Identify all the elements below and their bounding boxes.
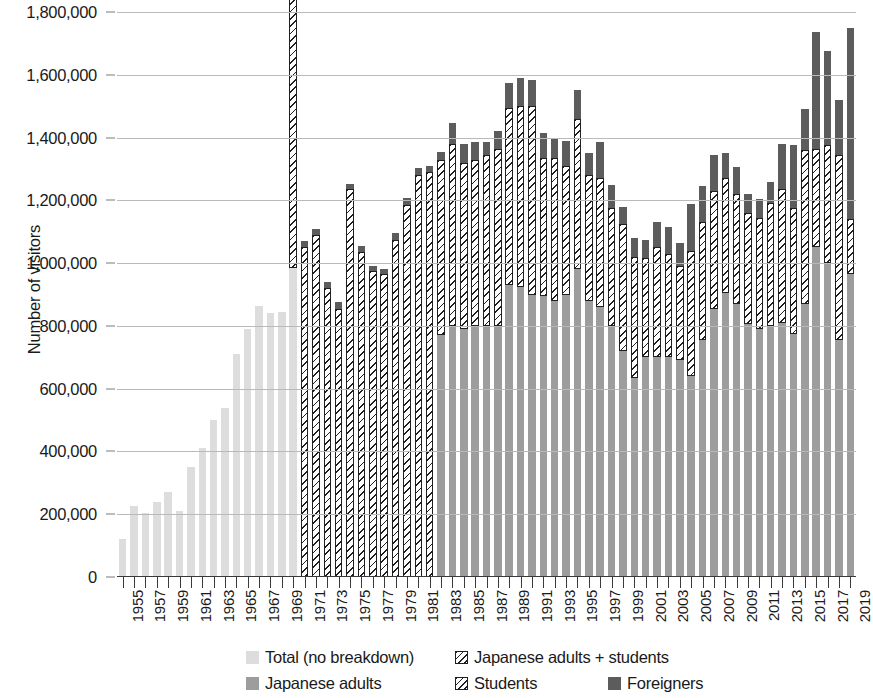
bar-segment-foreigners xyxy=(449,123,457,143)
x-tick-mark xyxy=(691,577,692,588)
x-tick-mark xyxy=(771,577,772,588)
bar-column xyxy=(449,123,457,577)
legend-item[interactable]: Students xyxy=(455,674,537,693)
x-tick-label: 1967 xyxy=(265,590,282,622)
bar-segment-students xyxy=(722,178,730,293)
legend-item[interactable]: Total (no breakdown) xyxy=(246,648,414,667)
bar-segment-total xyxy=(289,268,297,577)
x-tick-label: 1999 xyxy=(629,590,646,622)
bar-segment-students xyxy=(460,163,468,329)
x-tick-mark xyxy=(373,577,374,588)
bar-segment-students xyxy=(494,149,502,326)
bar-segment-total xyxy=(233,354,241,577)
x-tick-mark xyxy=(839,577,840,588)
bar-segment-students xyxy=(824,145,832,263)
bar-segment-students xyxy=(608,208,616,326)
gridline xyxy=(117,514,856,515)
bar-segment-students xyxy=(631,257,639,378)
x-tick-label: 2005 xyxy=(697,590,714,622)
y-tick-label: 1,200,000 xyxy=(0,191,97,210)
x-tick-mark xyxy=(418,577,419,588)
x-tick-mark xyxy=(361,577,362,588)
bar-segment-adults xyxy=(540,296,548,577)
chart-legend: Total (no breakdown)Japanese adults + st… xyxy=(0,646,861,698)
x-tick-mark xyxy=(680,577,681,588)
x-tick-mark xyxy=(316,577,317,588)
bar-column xyxy=(471,142,479,577)
bar-column xyxy=(596,142,604,577)
bar-segment-foreigners xyxy=(812,32,820,148)
x-tick-mark xyxy=(646,577,647,588)
bar-segment-foreigners xyxy=(642,240,650,259)
x-tick-mark xyxy=(248,577,249,588)
x-tick-label: 1979 xyxy=(402,590,419,622)
x-tick-mark xyxy=(759,577,760,588)
bar-segment-total xyxy=(153,502,161,577)
y-tick-label: 400,000 xyxy=(0,442,97,461)
bar-column xyxy=(119,539,127,577)
bar-segment-foreigners xyxy=(710,155,718,191)
gridline xyxy=(117,12,856,13)
x-tick-mark xyxy=(487,577,488,588)
x-tick-mark xyxy=(464,577,465,588)
y-tick-mark xyxy=(106,577,115,578)
x-tick-label: 2013 xyxy=(788,590,805,622)
x-tick-label: 2003 xyxy=(674,590,691,622)
bar-column xyxy=(278,312,286,577)
bar-segment-students xyxy=(574,119,582,270)
bar-segment-adults xyxy=(687,376,695,577)
gridline xyxy=(117,263,856,264)
bar-segment-students xyxy=(449,144,457,326)
bar-segment-foreigners xyxy=(744,194,752,213)
bar-segment-foreigners xyxy=(699,186,707,222)
bar-segment-jas xyxy=(301,247,309,577)
bar-column xyxy=(847,28,855,577)
legend-swatch-icon xyxy=(608,677,621,690)
bar-column xyxy=(483,142,491,577)
bar-segment-foreigners xyxy=(403,198,411,205)
x-tick-label: 2017 xyxy=(834,590,851,622)
x-tick-mark xyxy=(589,577,590,588)
x-tick-mark xyxy=(805,577,806,588)
x-tick-mark xyxy=(793,577,794,588)
bar-segment-adults xyxy=(847,274,855,577)
bar-segment-foreigners xyxy=(847,28,855,219)
legend-label: Japanese adults xyxy=(265,674,381,693)
x-tick-mark xyxy=(339,577,340,588)
bar-column xyxy=(199,448,207,577)
y-tick-label: 1,600,000 xyxy=(0,65,97,84)
x-tick-label: 1957 xyxy=(151,590,168,622)
bar-segment-students xyxy=(642,258,650,357)
bar-column xyxy=(676,243,684,577)
x-tick-mark xyxy=(555,577,556,588)
legend-item[interactable]: Foreigners xyxy=(608,674,703,693)
bar-column xyxy=(835,100,843,577)
bar-segment-jas xyxy=(392,240,400,577)
bar-segment-foreigners xyxy=(574,90,582,118)
bar-segment-foreigners xyxy=(460,144,468,163)
bar-segment-students xyxy=(437,160,445,336)
bar-column xyxy=(415,168,423,577)
x-tick-mark xyxy=(498,577,499,588)
y-tick-mark xyxy=(106,12,115,13)
bar-segment-students xyxy=(733,194,741,304)
bar-segment-total xyxy=(267,313,275,577)
x-tick-mark xyxy=(168,577,169,588)
bar-column xyxy=(790,145,798,577)
bar-segment-students xyxy=(812,149,820,248)
bar-segment-foreigners xyxy=(801,109,809,150)
bar-segment-jas xyxy=(358,252,366,577)
legend-item[interactable]: Japanese adults xyxy=(246,674,381,693)
y-tick-label: 600,000 xyxy=(0,379,97,398)
x-tick-mark xyxy=(634,577,635,588)
bar-column xyxy=(233,354,241,577)
bar-segment-students xyxy=(596,178,604,307)
x-tick-mark xyxy=(293,577,294,588)
x-tick-label: 1997 xyxy=(606,590,623,622)
legend-item[interactable]: Japanese adults + students xyxy=(455,648,669,667)
bar-segment-adults xyxy=(756,329,764,577)
bar-column xyxy=(335,302,343,577)
bar-column xyxy=(153,502,161,577)
x-tick-mark xyxy=(566,577,567,588)
